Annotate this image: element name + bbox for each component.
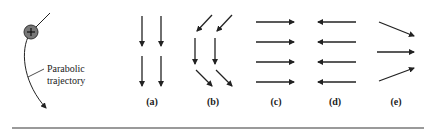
panel-a-label: (a) [137,96,167,107]
bottom-rule [12,127,424,129]
panel-b-arrows [195,15,232,86]
panel-b-label: (b) [198,96,228,107]
panel-a-arrows [142,16,161,86]
panel-c-arrows [256,22,294,82]
trajectory-diagram [24,13,50,108]
trajectory-label: Parabolic trajectory [47,63,85,87]
panel-e-arrows [377,22,414,81]
panel-d-label: (d) [320,96,350,107]
trajectory-curve [24,37,46,108]
label-leader-line [28,69,44,77]
panel-e-label: (e) [381,96,411,107]
panel-d-arrows [318,22,356,82]
panel-c-label: (c) [261,96,291,107]
